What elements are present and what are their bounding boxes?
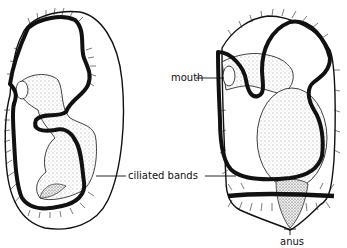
ciliated-bands-label: ciliated bands (128, 171, 198, 181)
right-larva (218, 9, 340, 230)
larva-diagram (0, 0, 347, 248)
left-larva (4, 8, 123, 229)
anus-label: anus (280, 237, 304, 247)
mouth-label: mouth (171, 73, 203, 83)
